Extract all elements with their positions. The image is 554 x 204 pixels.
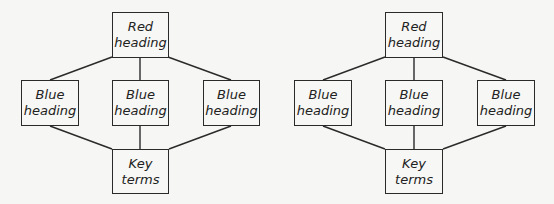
box-label: Key <box>122 156 160 172</box>
box-label: heading <box>388 103 441 119</box>
box-label: terms <box>395 172 433 188</box>
box-label: heading <box>388 35 441 51</box>
key-terms-box: Keyterms <box>112 149 169 194</box>
blue-heading-box: Blueheading <box>112 80 169 126</box>
red-heading-box: Redheading <box>112 12 169 58</box>
box-label: terms <box>122 172 160 188</box>
blue-heading-box: Blueheading <box>294 80 352 126</box>
box-label: heading <box>114 35 167 51</box>
box-label: heading <box>24 103 77 119</box>
box-label: Red <box>388 19 441 35</box>
box-label: heading <box>205 103 258 119</box>
blue-heading-box: Blueheading <box>203 80 260 126</box>
box-label: heading <box>297 103 350 119</box>
box-label: Key <box>395 156 433 172</box>
blue-heading-box: Blueheading <box>21 80 79 126</box>
box-label: Blue <box>24 87 77 103</box>
box-label: heading <box>114 103 167 119</box>
key-terms-box: Keyterms <box>385 149 443 194</box>
box-label: heading <box>480 103 533 119</box>
box-label: Blue <box>388 87 441 103</box>
box-label: Blue <box>205 87 258 103</box>
box-label: Blue <box>480 87 533 103</box>
box-label: Red <box>114 19 167 35</box>
box-label: Blue <box>114 87 167 103</box>
blue-heading-box: Blueheading <box>477 80 535 126</box>
blue-heading-box: Blueheading <box>385 80 443 126</box>
box-label: Blue <box>297 87 350 103</box>
red-heading-box: Redheading <box>385 12 443 58</box>
connector-lines <box>0 0 554 204</box>
